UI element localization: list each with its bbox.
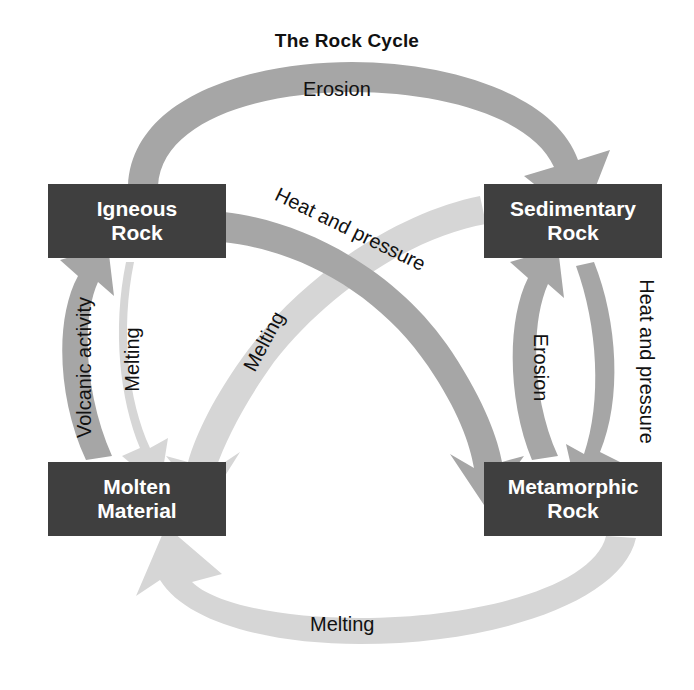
- arrow-heat-pressure-right: [566, 262, 620, 496]
- arrow-layer: .dark { fill: #a6a6a6; } .light { fill: …: [0, 0, 694, 690]
- node-sedimentary-rock-label: Sedimentary Rock: [510, 197, 636, 245]
- node-metamorphic-rock: Metamorphic Rock: [484, 462, 662, 536]
- arrow-label-erosion-right: Erosion: [529, 334, 552, 402]
- arrow-label-volcanic-activity: Volcanic activity: [73, 297, 96, 438]
- arrow-melting-bottom: [136, 526, 636, 644]
- node-igneous-rock-label: Igneous Rock: [97, 197, 178, 245]
- page-title: The Rock Cycle: [0, 30, 694, 52]
- arrow-label-melting-bottom: Melting: [310, 613, 374, 636]
- node-molten-material-label: Molten Material: [97, 475, 176, 523]
- arrow-label-melting-left: Melting: [121, 327, 144, 391]
- node-molten-material: Molten Material: [48, 462, 226, 536]
- node-igneous-rock: Igneous Rock: [48, 184, 226, 258]
- arrow-label-heat-pressure-right: Heat and pressure: [635, 279, 658, 444]
- node-metamorphic-rock-label: Metamorphic Rock: [508, 475, 639, 523]
- node-sedimentary-rock: Sedimentary Rock: [484, 184, 662, 258]
- arrow-label-erosion-top: Erosion: [303, 78, 371, 101]
- rock-cycle-diagram: The Rock Cycle .dark { fill: #a6a6a6; } …: [0, 0, 694, 690]
